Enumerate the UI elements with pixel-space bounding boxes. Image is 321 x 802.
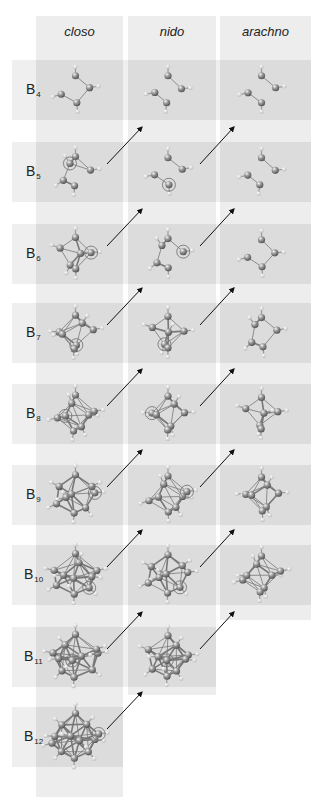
boron-atom [60, 177, 67, 184]
boron-atom [85, 748, 92, 755]
arrow-nido-to-arachno-b6 [200, 209, 234, 246]
hydrogen-atom [237, 257, 241, 261]
boron-atom [56, 245, 63, 252]
hydrogen-atom [73, 226, 77, 230]
hydrogen-atom [243, 346, 247, 350]
boron-atom [58, 748, 65, 755]
hydrogen-atom [166, 465, 170, 469]
hydrogen-atom [141, 560, 145, 564]
hydrogen-atom [85, 314, 89, 318]
hydrogen-atom [235, 492, 239, 496]
borane-cluster [41, 702, 110, 769]
hydrogen-atom [167, 192, 171, 196]
boron-atom [272, 84, 279, 91]
hydrogen-atom [97, 167, 101, 171]
hydrogen-atom [64, 271, 68, 275]
boron-atom [59, 331, 66, 338]
borane-cluster [237, 147, 287, 196]
boron-atom [55, 655, 62, 662]
borane-cluster [46, 464, 106, 525]
boron-atom [76, 737, 83, 744]
boron-atom [164, 632, 171, 639]
boron-atom [72, 550, 79, 557]
boron-atom [89, 666, 96, 673]
arrow-closo-to-nido-b10 [107, 530, 142, 567]
boron-atom [248, 339, 255, 346]
hydrogen-atom [147, 654, 151, 658]
hydrogen-atom [96, 84, 100, 88]
boron-atom [182, 656, 189, 663]
hydrogen-atom [90, 715, 94, 719]
hydrogen-atom [164, 110, 168, 114]
boron-atom [153, 259, 160, 266]
boron-atom [165, 181, 172, 188]
hydrogen-atom [259, 147, 263, 151]
boron-atom [58, 91, 65, 98]
boron-atom [272, 167, 279, 174]
boron-atom [259, 343, 266, 350]
boron-atom [71, 509, 78, 516]
hydrogen-atom [179, 513, 183, 517]
arrow-closo-to-nido-b11 [107, 612, 142, 649]
hydrogen-atom [171, 322, 175, 326]
hydrogen-atom [98, 480, 102, 484]
hydrogen-atom [97, 673, 101, 677]
boron-atom [164, 551, 171, 558]
hydrogen-atom [164, 683, 168, 687]
hydrogen-atom [51, 333, 55, 337]
borane-cluster [148, 227, 195, 279]
boron-atom [79, 320, 86, 327]
hydrogen-atom [270, 475, 274, 479]
boron-atom [160, 481, 167, 488]
arrow-nido-to-arachno-b8 [200, 369, 234, 406]
hydrogen-atom [259, 466, 263, 470]
borane-cluster [235, 466, 290, 522]
hydrogen-atom [71, 684, 75, 688]
boron-atom [71, 674, 78, 681]
boron-atom [71, 591, 78, 598]
hydrogen-atom [138, 584, 142, 588]
arrow-nido-to-arachno-b5 [200, 127, 234, 164]
borane-cluster [237, 229, 286, 278]
hydrogen-atom [138, 644, 142, 648]
boron-atom [72, 471, 79, 478]
arrow-closo-to-nido-b9 [107, 450, 142, 487]
hydrogen-atom [166, 385, 170, 389]
borane-cluster [138, 544, 199, 605]
hydrogen-atom [73, 623, 77, 627]
boron-atom [273, 327, 280, 334]
boron-atom [145, 646, 152, 653]
boron-atom [145, 497, 152, 504]
hydrogen-atom [141, 410, 145, 414]
boron-atom [93, 646, 100, 653]
boron-atom [53, 500, 60, 507]
hydrogen-atom [179, 676, 183, 680]
boron-atom [259, 507, 266, 514]
hydrogen-atom [57, 636, 61, 640]
hydrogen-atom [156, 568, 160, 572]
boron-atom [71, 755, 78, 762]
hydrogen-atom [73, 65, 77, 69]
hydrogen-atom [189, 165, 193, 169]
hydrogen-atom [73, 145, 77, 149]
boron-atom [275, 490, 282, 497]
hydrogen-atom [282, 250, 286, 254]
boron-atom [173, 642, 180, 649]
hydrogen-atom [166, 519, 170, 523]
hydrogen-atom [270, 408, 274, 412]
hydrogen-atom [72, 765, 76, 769]
hydrogen-atom [143, 672, 147, 676]
boron-atom [164, 313, 171, 320]
boron-atom [164, 235, 171, 242]
hydrogen-atom [190, 248, 194, 252]
hydrogen-atom [166, 305, 170, 309]
boron-atom [258, 236, 265, 243]
hydrogen-atom [237, 92, 241, 96]
boron-atom [49, 649, 56, 656]
boron-atom [78, 423, 85, 430]
borane-cluster [142, 305, 195, 359]
hydrogen-atom [194, 488, 198, 492]
boron-atom [164, 72, 171, 79]
hydrogen-atom [102, 490, 106, 494]
hydrogen-atom [287, 567, 291, 571]
